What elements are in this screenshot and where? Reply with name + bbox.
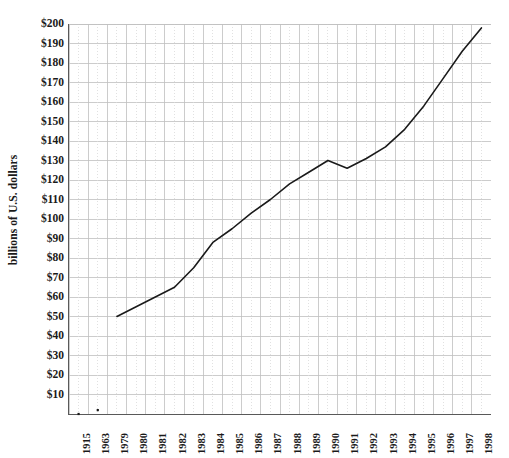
x-axis-tick-label-text: 1983 (197, 433, 208, 454)
series-point-marker (97, 409, 99, 411)
y-axis-tick-label: $30 (47, 350, 64, 362)
x-axis-tick-label-text: 1980 (139, 433, 150, 454)
x-axis-tick-label-text: 1985 (235, 433, 246, 454)
x-axis-tick-label-text: 1986 (254, 433, 265, 454)
y-axis-tick-label: $140 (41, 135, 64, 147)
y-axis-tick-label: $170 (41, 77, 64, 89)
y-axis-tick-label: $40 (47, 330, 64, 342)
y-axis-tick-label: $120 (41, 174, 64, 186)
x-axis-tick-label-text: 1915 (82, 433, 93, 454)
x-axis-tick-label-text: 1992 (369, 433, 380, 454)
y-axis-title-text: billions of U.S. dollars (7, 155, 19, 266)
y-axis-tick-label: $180 (41, 57, 64, 69)
y-axis-tick-label: $50 (47, 311, 64, 323)
x-axis-tick-label-text: 1989 (312, 433, 323, 454)
y-axis-tick-label: $10 (47, 389, 64, 401)
series-polyline (117, 28, 481, 317)
x-axis-tick-label-text: 1993 (389, 433, 400, 454)
x-axis-tick-label-text: 1991 (350, 433, 361, 454)
y-axis-tick-label: $190 (41, 38, 64, 50)
y-axis-tick-label: $150 (41, 116, 64, 128)
y-axis-tick-label: $90 (47, 233, 64, 245)
x-axis-tick-label-text: 1988 (293, 433, 304, 454)
x-axis-tick-label-text: 1984 (216, 433, 227, 454)
y-axis-tick-label: $130 (41, 155, 64, 167)
y-axis-tick-label: $70 (47, 272, 64, 284)
x-axis-tick-label-text: 1997 (465, 433, 476, 454)
y-axis-tick-label: $80 (47, 252, 64, 264)
data-series-line (69, 24, 491, 414)
x-axis-tick-label-text: 1994 (408, 433, 419, 454)
x-axis-tick-label-text: 1982 (178, 433, 189, 454)
x-axis-tick-labels: 1915196319791980198119821983198419851986… (68, 416, 490, 458)
y-axis-tick-label: $100 (41, 213, 64, 225)
x-axis-tick-label-text: 1979 (120, 433, 131, 454)
x-axis-tick-label-text: 1987 (273, 433, 284, 454)
y-axis-title: billions of U.S. dollars (0, 0, 26, 420)
y-axis-tick-labels: $10$20$30$40$50$60$70$80$90$100$110$120$… (26, 0, 68, 420)
x-axis-tick-label-text: 1998 (484, 433, 495, 454)
series-point-marker (77, 413, 79, 415)
y-axis-tick-label: $160 (41, 96, 64, 108)
x-axis-tick-label-text: 1995 (427, 433, 438, 454)
y-axis-tick-label: $60 (47, 291, 64, 303)
y-axis-tick-label: $200 (41, 18, 64, 30)
x-axis-tick-label-text: 1981 (158, 433, 169, 454)
plot-area (68, 24, 491, 415)
line-chart: billions of U.S. dollars $10$20$30$40$50… (0, 0, 509, 458)
y-axis-tick-label: $20 (47, 369, 64, 381)
x-axis-tick-label-text: 1990 (331, 433, 342, 454)
y-axis-tick-label: $110 (42, 194, 64, 206)
x-axis-tick-label-text: 1963 (101, 433, 112, 454)
x-axis-tick-label-text: 1996 (446, 433, 457, 454)
